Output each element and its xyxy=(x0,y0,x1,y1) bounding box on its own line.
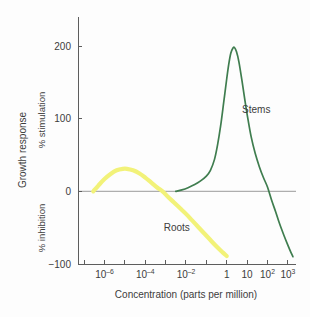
y-tick-label: 0 xyxy=(65,186,71,197)
series-label-roots: Roots xyxy=(164,222,190,233)
growth-response-chart: 10–610–410–2110102103 2001000−100 RootsS… xyxy=(0,0,310,317)
x-tick-label: 10 xyxy=(242,269,254,280)
series-label-stems: Stems xyxy=(242,104,270,115)
y-tick-label: 200 xyxy=(54,41,71,52)
y-tick-label: −100 xyxy=(48,259,71,270)
x-axis-title: Concentration (parts per million) xyxy=(115,289,257,300)
y-tick-label: 100 xyxy=(54,113,71,124)
y-axis-title: Growth response xyxy=(17,111,28,188)
y-axis-upper-label: % stimulation xyxy=(36,92,47,149)
y-axis-lower-label: % inhibition xyxy=(36,204,47,253)
x-tick-label: 1 xyxy=(224,269,230,280)
chart-figure: 10–610–410–2110102103 2001000−100 RootsS… xyxy=(0,0,310,317)
